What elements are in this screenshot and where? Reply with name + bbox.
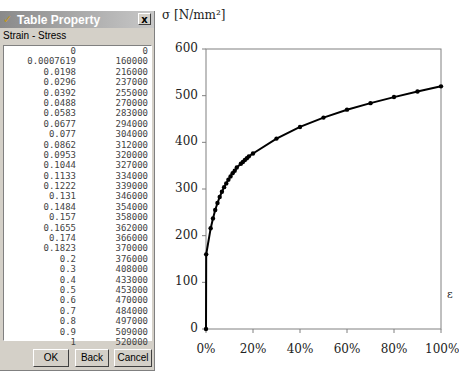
table-row[interactable]: 0.077304000 (4, 129, 151, 139)
strain-cell[interactable]: 0.0392 (4, 88, 76, 98)
strain-cell[interactable]: 0.8 (4, 316, 76, 326)
table-row[interactable]: 0.1823370000 (4, 243, 151, 253)
stress-cell[interactable]: 346000 (76, 191, 148, 201)
table-row[interactable]: 0.0488270000 (4, 98, 151, 108)
stress-cell[interactable]: 304000 (76, 129, 148, 139)
stress-cell[interactable]: 370000 (76, 243, 148, 253)
stress-cell[interactable]: 497000 (76, 316, 148, 326)
strain-cell[interactable]: 0.4 (4, 275, 76, 285)
strain-cell[interactable]: 0.0953 (4, 150, 76, 160)
strain-cell[interactable]: 0.2 (4, 254, 76, 264)
table-row[interactable]: 0.4433000 (4, 275, 151, 285)
strain-cell[interactable]: 0.0862 (4, 140, 76, 150)
dialog-title: Table Property (17, 13, 100, 27)
strain-cell[interactable]: 0.6 (4, 295, 76, 305)
table-row[interactable]: 0.0677294000 (4, 119, 151, 129)
strain-cell[interactable]: 0.1823 (4, 243, 76, 253)
strain-cell[interactable]: 0.1484 (4, 202, 76, 212)
strain-cell[interactable]: 0 (4, 46, 76, 56)
data-table[interactable]: 000.00076191600000.01982160000.029623700… (3, 45, 152, 341)
stress-cell[interactable]: 366000 (76, 233, 148, 243)
table-row[interactable]: 0.0198216000 (4, 67, 151, 77)
stress-cell[interactable]: 484000 (76, 306, 148, 316)
strain-cell[interactable]: 0.1655 (4, 223, 76, 233)
stress-cell[interactable]: 520000 (76, 337, 148, 347)
stress-cell[interactable]: 408000 (76, 264, 148, 274)
back-button[interactable]: Back (75, 349, 109, 367)
table-row[interactable]: 0.0862312000 (4, 140, 151, 150)
strain-cell[interactable]: 0.3 (4, 264, 76, 274)
table-row[interactable]: 0.174366000 (4, 233, 151, 243)
strain-cell[interactable]: 0.077 (4, 129, 76, 139)
stress-cell[interactable]: 470000 (76, 295, 148, 305)
strain-cell[interactable]: 0.0198 (4, 67, 76, 77)
ok-button[interactable]: OK (33, 349, 69, 367)
strain-cell[interactable]: 0.131 (4, 191, 76, 201)
stress-cell[interactable]: 237000 (76, 77, 148, 87)
table-row[interactable]: 0.1044327000 (4, 160, 151, 170)
stress-cell[interactable]: 453000 (76, 285, 148, 295)
table-row[interactable]: 0.1133334000 (4, 171, 151, 181)
stress-cell[interactable]: 354000 (76, 202, 148, 212)
table-row[interactable]: 0.1222339000 (4, 181, 151, 191)
table-row[interactable]: 0.0296237000 (4, 77, 151, 87)
stress-cell[interactable]: 327000 (76, 160, 148, 170)
stress-cell[interactable]: 312000 (76, 140, 148, 150)
stress-cell[interactable]: 339000 (76, 181, 148, 191)
strain-cell[interactable]: 0.1222 (4, 181, 76, 191)
table-row[interactable]: 0.3408000 (4, 264, 151, 274)
strain-cell[interactable]: 0.1044 (4, 160, 76, 170)
table-row[interactable]: 0.1484354000 (4, 202, 151, 212)
table-row[interactable]: 0.1655362000 (4, 223, 151, 233)
dialog-titlebar[interactable]: ✓ Table Property x (0, 11, 154, 28)
strain-cell[interactable]: 0.5 (4, 285, 76, 295)
table-property-dialog: ✓ Table Property x Strain - Stress 000.0… (0, 11, 155, 371)
stress-cell[interactable]: 283000 (76, 108, 148, 118)
stress-cell[interactable]: 509000 (76, 327, 148, 337)
stress-cell[interactable]: 294000 (76, 119, 148, 129)
stress-cell[interactable]: 433000 (76, 275, 148, 285)
table-row[interactable]: 0.7484000 (4, 306, 151, 316)
strain-cell[interactable]: 0.0488 (4, 98, 76, 108)
strain-cell[interactable]: 0.174 (4, 233, 76, 243)
close-button[interactable]: x (138, 13, 151, 25)
table-row[interactable]: 0.0007619160000 (4, 56, 151, 66)
table-row[interactable]: 0.157358000 (4, 212, 151, 222)
table-row[interactable]: 0.8497000 (4, 316, 151, 326)
stress-cell[interactable]: 216000 (76, 67, 148, 77)
table-row[interactable]: 0.0392255000 (4, 88, 151, 98)
stress-cell[interactable]: 255000 (76, 88, 148, 98)
stress-strain-chart: σ [N/mm²] ε 0100200300400500600 0%20%40%… (155, 0, 459, 376)
table-row[interactable]: 0.0953320000 (4, 150, 151, 160)
strain-cell[interactable]: 0.0296 (4, 77, 76, 87)
table-row[interactable]: 0.6470000 (4, 295, 151, 305)
strain-cell[interactable]: 0.0007619 (4, 56, 76, 66)
stress-cell[interactable]: 270000 (76, 98, 148, 108)
plot-area (155, 0, 459, 376)
app-icon: ✓ (3, 14, 15, 26)
strain-cell[interactable]: 0.157 (4, 212, 76, 222)
strain-cell[interactable]: 0.7 (4, 306, 76, 316)
strain-cell[interactable]: 0.9 (4, 327, 76, 337)
stress-cell[interactable]: 376000 (76, 254, 148, 264)
strain-cell[interactable]: 0.0583 (4, 108, 76, 118)
stress-cell[interactable]: 362000 (76, 223, 148, 233)
table-row[interactable]: 0.5453000 (4, 285, 151, 295)
table-row[interactable]: 0.9509000 (4, 327, 151, 337)
stress-cell[interactable]: 334000 (76, 171, 148, 181)
stress-cell[interactable]: 358000 (76, 212, 148, 222)
strain-cell[interactable]: 0.1133 (4, 171, 76, 181)
table-row[interactable]: 0.0583283000 (4, 108, 151, 118)
table-row[interactable]: 00 (4, 46, 151, 56)
strain-cell[interactable]: 1 (4, 337, 76, 347)
stress-cell[interactable]: 320000 (76, 150, 148, 160)
table-row[interactable]: 0.131346000 (4, 191, 151, 201)
table-row[interactable]: 1520000 (4, 337, 151, 347)
cancel-button[interactable]: Cancel (114, 349, 152, 367)
table-subtitle: Strain - Stress (0, 28, 154, 44)
stress-cell[interactable]: 160000 (76, 56, 148, 66)
stress-cell[interactable]: 0 (76, 46, 148, 56)
strain-cell[interactable]: 0.0677 (4, 119, 76, 129)
table-row[interactable]: 0.2376000 (4, 254, 151, 264)
